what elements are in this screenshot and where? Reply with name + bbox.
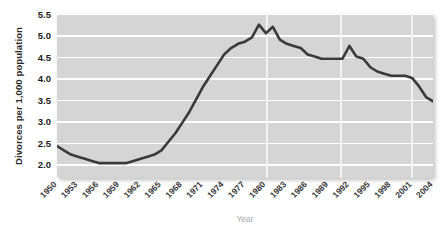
- plot-area: [57, 14, 433, 178]
- x-tick-label: 2001: [393, 179, 414, 200]
- y-tick-label: 3.0: [38, 116, 51, 127]
- x-tick-label: 1971: [184, 179, 205, 200]
- x-tick-label: 1995: [351, 179, 372, 200]
- y-axis-tick-labels: 2.0 2.5 3.0 3.5 4.0 4.5 5.0 5.5: [38, 9, 52, 171]
- x-tick-label: 1950: [38, 179, 59, 200]
- x-tick-label: 1983: [268, 179, 289, 200]
- chart-figure: 2.0 2.5 3.0 3.5 4.0 4.5 5.0 5.5 Divorces…: [0, 0, 448, 232]
- x-tick-label: 1962: [122, 179, 143, 200]
- y-tick-label: 3.5: [38, 95, 52, 106]
- y-tick-label: 5.0: [38, 30, 51, 41]
- x-tick-label: 1956: [80, 179, 101, 200]
- y-tick-label: 2.5: [38, 138, 52, 149]
- x-tick-label: 1965: [142, 179, 163, 200]
- y-axis-title: Divorces per 1,000 population: [13, 27, 24, 165]
- x-tick-label: 1974: [205, 179, 226, 200]
- y-tick-label: 5.5: [38, 9, 52, 20]
- x-tick-label: 1986: [289, 179, 310, 200]
- y-tick-label: 4.0: [38, 73, 51, 84]
- y-tick-label: 4.5: [38, 52, 52, 63]
- x-tick-label: 1980: [247, 179, 268, 200]
- divorce-rate-line-chart: 2.0 2.5 3.0 3.5 4.0 4.5 5.0 5.5 Divorces…: [0, 0, 448, 232]
- x-tick-label: 1989: [310, 179, 331, 200]
- x-tick-label: 1992: [330, 179, 351, 200]
- plot-background: [57, 14, 433, 178]
- x-tick-label: 1953: [59, 179, 80, 200]
- x-tick-label: 1968: [163, 179, 184, 200]
- x-axis-title: Year: [236, 214, 253, 224]
- x-tick-label: 2004: [414, 179, 435, 200]
- x-tick-label: 1959: [101, 179, 122, 200]
- x-tick-label: 1977: [226, 179, 247, 200]
- y-tick-label: 2.0: [38, 159, 51, 170]
- x-tick-label: 1998: [372, 179, 393, 200]
- x-axis-tick-labels: 1950195319561959196219651968197119741977…: [38, 179, 435, 200]
